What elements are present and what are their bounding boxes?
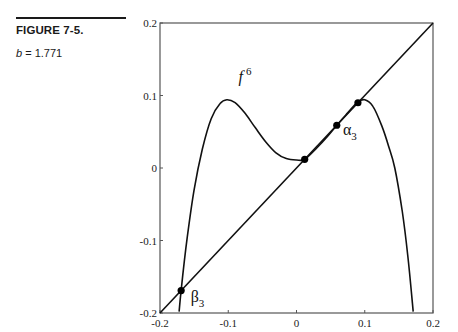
point-β3 [178, 287, 185, 294]
x-tick-label: 0.1 [358, 317, 372, 329]
y-tick-label: -0.2 [140, 307, 157, 319]
diagonal-line [160, 23, 433, 313]
point-α3 [333, 122, 340, 129]
annotation-α: α3 [343, 121, 357, 142]
fixed-point [354, 99, 361, 106]
x-tick-label: 0 [294, 317, 300, 329]
fixed-point [301, 156, 308, 163]
plot-series [160, 23, 433, 313]
y-tick-label: 0.2 [143, 17, 157, 29]
y-tick-label: 0 [152, 162, 158, 174]
x-tick-label: 0.2 [426, 317, 440, 329]
y-tick-label: 0.1 [143, 90, 157, 102]
x-tick-label: -0.1 [220, 317, 237, 329]
plot-annotations: f6α3β3 [191, 65, 358, 309]
annotation-f: f6 [238, 65, 251, 86]
f6-curve [179, 100, 413, 312]
plot-canvas: -0.2-0.100.10.20.20.10-0.1-0.2 f6α3β3 [0, 0, 458, 332]
annotation-β: β3 [191, 288, 205, 309]
y-tick-label: -0.1 [140, 235, 157, 247]
